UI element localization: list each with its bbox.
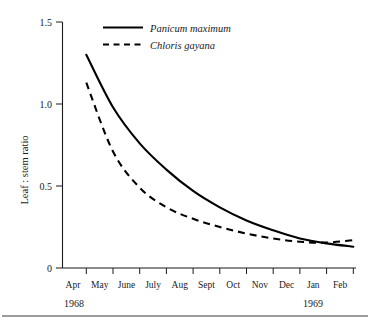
x-label-feb: Feb <box>333 280 348 290</box>
leaf-stem-ratio-line-chart: 1.5 1.0 0.5 0 Leaf : stem ratio Apr May … <box>0 0 370 328</box>
y-tick-label-0: 0 <box>47 263 52 274</box>
x-label-july: July <box>145 280 161 290</box>
year-label-end: 1969 <box>303 298 323 309</box>
year-label-start: 1968 <box>64 298 84 309</box>
x-label-apr: Apr <box>66 280 82 290</box>
y-axis-title: Leaf : stem ratio <box>19 135 30 204</box>
x-label-may: May <box>91 280 109 290</box>
x-label-aug: Aug <box>172 280 189 290</box>
x-label-dec: Dec <box>279 280 294 290</box>
x-label-jan: Jan <box>307 280 320 290</box>
y-tick-label-1.5: 1.5 <box>40 17 53 28</box>
chart-figure: 1.5 1.0 0.5 0 Leaf : stem ratio Apr May … <box>0 0 370 328</box>
y-tick-label-0.5: 0.5 <box>40 181 53 192</box>
x-label-sept: Sept <box>198 280 215 290</box>
legend-label-panicum-maximum: Panicum maximum <box>149 23 231 34</box>
x-label-oct: Oct <box>226 280 240 290</box>
y-tick-label-1.0: 1.0 <box>40 99 53 110</box>
x-label-june: June <box>118 280 135 290</box>
legend-label-chloris-gayana: Chloris gayana <box>150 40 215 51</box>
x-label-nov: Nov <box>252 280 269 290</box>
